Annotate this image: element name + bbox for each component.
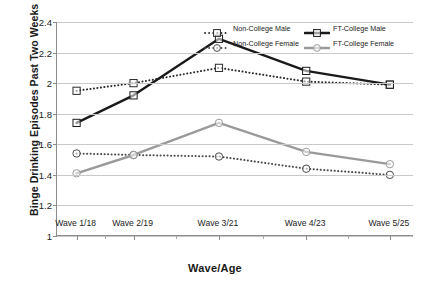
data-point-marker <box>73 170 80 177</box>
y-tick-label: 1 <box>47 231 52 242</box>
series-line <box>77 123 390 173</box>
y-tick-mark <box>53 175 57 176</box>
y-tick-label: 1.8 <box>39 108 52 119</box>
data-point-marker <box>130 92 137 99</box>
gridline <box>57 114 413 115</box>
data-point-marker <box>386 160 393 167</box>
x-tick-label: Wave 1/18 <box>55 218 96 228</box>
x-tick-mark <box>77 236 78 240</box>
data-point-marker <box>303 165 310 172</box>
data-point-marker <box>215 119 222 126</box>
legend-item-non-college-female: Non-College Female <box>204 39 304 49</box>
data-point-marker <box>215 64 222 71</box>
x-tick-mark <box>134 236 135 240</box>
y-tick-mark <box>53 144 57 145</box>
series-layer <box>57 22 413 236</box>
y-tick-label: 1.6 <box>39 139 52 150</box>
y-tick-mark <box>53 236 57 237</box>
binge-drinking-line-chart: Binge Drinking Episodes Past Two Weeks 1… <box>0 0 430 293</box>
legend-swatch-dotted-square-icon <box>204 24 230 34</box>
x-tick-mark <box>306 236 307 240</box>
x-tick-label: Wave 4/23 <box>285 218 326 228</box>
data-point-marker <box>130 151 137 158</box>
x-tick-mark <box>390 236 391 240</box>
y-tick-mark <box>53 114 57 115</box>
x-tick-mark-minor <box>263 236 264 239</box>
x-tick-label: Wave 2/19 <box>112 218 153 228</box>
y-tick-mark <box>53 22 57 23</box>
data-point-marker <box>73 87 80 94</box>
x-tick-label: Wave 5/25 <box>368 218 409 228</box>
legend-swatch-dotted-circle-icon <box>204 39 230 49</box>
legend-item-non-college-male: Non-College Male <box>204 24 304 34</box>
gridline <box>57 83 413 84</box>
legend-label: Non-College Female <box>233 39 299 48</box>
x-axis-title: Wave/Age <box>0 262 430 274</box>
legend-swatch-solid-circle-icon <box>304 39 330 49</box>
legend-label: FT-College Male <box>333 24 386 33</box>
legend-swatch-solid-square-icon <box>304 24 330 34</box>
legend: Non-College Male FT-College Male Non-Col… <box>204 21 426 51</box>
series-line <box>77 39 390 123</box>
data-point-marker <box>386 81 393 88</box>
legend-label: Non-College Male <box>233 24 291 33</box>
y-tick-label: 2.2 <box>39 47 52 58</box>
y-tick-mark <box>53 53 57 54</box>
data-point-marker <box>215 153 222 160</box>
y-tick-label: 2.4 <box>39 17 52 28</box>
data-point-marker <box>73 150 80 157</box>
y-tick-mark <box>53 205 57 206</box>
y-tick-label: 1.4 <box>39 169 52 180</box>
legend-item-ft-college-female: FT-College Female <box>304 39 422 49</box>
data-point-marker <box>303 67 310 74</box>
x-tick-mark-minor <box>105 236 106 239</box>
series-line <box>77 68 390 91</box>
y-tick-label: 2 <box>47 78 52 89</box>
x-tick-mark-minor <box>348 236 349 239</box>
x-tick-label: Wave 3/21 <box>198 218 239 228</box>
x-tick-mark-minor <box>176 236 177 239</box>
data-point-marker <box>303 148 310 155</box>
x-tick-mark <box>219 236 220 240</box>
gridline <box>57 53 413 54</box>
gridline <box>57 175 413 176</box>
y-tick-mark <box>53 83 57 84</box>
legend-item-ft-college-male: FT-College Male <box>304 24 422 34</box>
plot-area: 11.21.41.61.822.22.4 <box>56 22 413 236</box>
gridline <box>57 205 413 206</box>
legend-label: FT-College Female <box>333 39 394 48</box>
gridline <box>57 144 413 145</box>
y-tick-label: 1.2 <box>39 200 52 211</box>
data-point-marker <box>73 119 80 126</box>
gridline <box>57 236 413 237</box>
